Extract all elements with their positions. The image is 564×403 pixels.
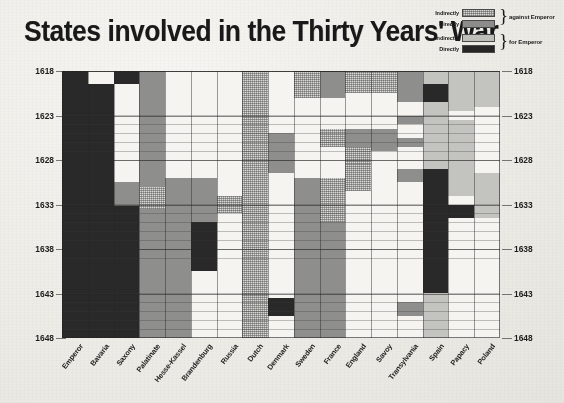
y-axis-tick-mark [502,249,512,250]
legend-group-label: for Emperor [509,39,542,45]
heatmap-cell [268,298,294,316]
chart-page: States involved in the Thirty Years' War… [0,0,564,403]
heatmap-cell [165,178,191,227]
legend-swatch-directly-against [462,20,495,28]
y-axis-tick-label: 1638 [35,244,54,254]
legend-label: Directly [425,21,462,27]
heatmap-cell [114,182,140,206]
x-axis-tick-label: Emperor [60,342,85,371]
y-axis-tick-label: 1628 [514,155,533,165]
heatmap-cell [371,129,397,151]
y-axis-tick-mark [502,338,512,339]
x-axis-tick-label: Papacy [449,342,471,367]
heatmap-cell [423,102,449,169]
heatmap-cell [320,222,346,338]
x-axis-tick-label: England [344,342,368,370]
heatmap-cell [423,71,449,84]
x-axis-tick-label: France [321,342,342,366]
heatmap-cell [423,169,449,294]
legend-label: Indirectly [425,35,462,41]
x-axis-tick-label: Russia [218,342,239,366]
legend-swatch-indirectly-for [462,34,495,42]
legend-swatch-indirectly-against [462,9,495,17]
brace-icon: } [499,31,508,50]
heatmap-cell [294,71,320,98]
x-axis-tick-label: Savoy [374,342,394,364]
grid-line [345,71,346,338]
heatmap-cell [474,71,500,107]
legend-label: Directly [425,46,462,52]
x-axis-tick-label: Sweden [293,342,317,369]
y-axis-tick-mark [502,116,512,117]
grid-line [397,71,398,338]
y-axis-tick-label: 1618 [514,66,533,76]
heatmap-cell [62,71,88,338]
heatmap-cell [139,209,165,338]
y-axis-tick-label: 1638 [514,244,533,254]
x-axis-tick-label: Bavaria [88,342,111,368]
heatmap-cell [268,133,294,173]
legend-row: Directly [425,44,495,53]
heatmap-cell [139,71,165,187]
heatmap-cell [345,129,371,147]
heatmap-cell [139,187,165,209]
chart-legend: Indirectly Directly Indirectly Directly … [425,6,561,58]
heatmap-cell [191,178,217,223]
heatmap-cell [217,196,243,214]
heatmap-cell [345,71,371,93]
heatmap-plot [62,71,500,338]
heatmap-cell [448,205,474,218]
heatmap-cell [294,178,320,338]
y-axis-tick-mark [502,71,512,72]
heatmap-cell [320,129,346,147]
heatmap-cell [88,84,114,338]
legend-swatch-directly-for [462,45,495,53]
heatmap-cell [397,138,423,147]
y-axis-tick-label: 1623 [35,111,54,121]
heatmap-cell [371,71,397,93]
x-axis-tick-label: Saxony [114,342,137,368]
y-axis-tick-label: 1648 [514,333,533,343]
heatmap-cell [114,206,140,338]
y-axis-tick-mark [502,160,512,161]
heatmap-cell [397,302,423,315]
heatmap-cell [397,169,423,182]
legend-row: Indirectly [425,33,495,42]
heatmap-cell [320,178,346,223]
x-axis-tick-label: Spain [427,342,446,363]
heatmap-cell [345,147,371,165]
legend-row: Indirectly [425,8,495,17]
y-axis-tick-mark [502,205,512,206]
heatmap-cell [114,71,140,84]
grid-line [371,71,372,338]
heatmap-cell [448,120,474,196]
chart-area [62,71,500,338]
heatmap-cell [397,116,423,125]
legend-group-label: against Emperor [509,14,555,20]
brace-icon: } [499,6,508,25]
y-axis-tick-mark [56,338,66,339]
x-axis-tick-label: Dutch [246,342,266,363]
y-axis-tick-label: 1648 [35,333,54,343]
y-axis-tick-label: 1623 [514,111,533,121]
heatmap-cell [345,164,371,191]
heatmap-cell [397,71,423,102]
x-axis-tick-label: Poland [476,342,498,366]
heatmap-cell [165,227,191,338]
x-axis-tick-label: Denmark [265,342,291,372]
y-axis-tick-label: 1618 [35,66,54,76]
y-axis-tick-label: 1628 [35,155,54,165]
heatmap-cell [448,71,474,111]
y-axis-tick-label: 1633 [514,200,533,210]
heatmap-cell [423,294,449,339]
y-axis-tick-label: 1633 [35,200,54,210]
y-axis-tick-mark [502,294,512,295]
heatmap-cell [474,173,500,218]
legend-row: Directly [425,19,495,28]
heatmap-cell [242,71,268,338]
heatmap-cell [423,84,449,102]
heatmap-cell [320,71,346,98]
x-axis: EmperorBavariaSaxonyPalatinateHesse-Kass… [62,340,500,400]
heatmap-cell [191,222,217,271]
y-axis-left: 1618162316281633163816431648 [18,71,58,338]
